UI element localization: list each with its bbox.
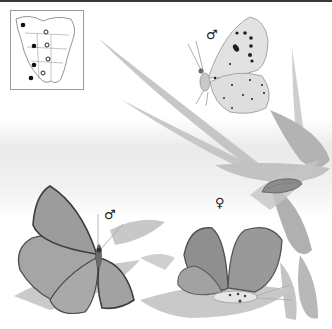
illustration-plate: ♂ ♂ ♀ — [0, 0, 332, 329]
female-symbol: ♀ — [215, 196, 225, 209]
range-map — [10, 10, 84, 90]
range-map-dots — [11, 11, 83, 89]
male-symbol-top: ♂ — [206, 28, 218, 41]
butterfly-top-male — [188, 17, 269, 113]
male-symbol-left: ♂ — [104, 208, 116, 221]
